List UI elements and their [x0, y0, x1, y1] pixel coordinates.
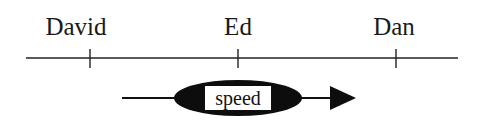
label-ed: Ed: [224, 14, 252, 39]
speed-label-box: speed: [205, 86, 271, 110]
label-david: David: [45, 14, 106, 39]
speed-label: speed: [215, 88, 261, 108]
label-dan: Dan: [373, 14, 415, 39]
diagram: David Ed Dan speed: [0, 0, 480, 125]
arrowhead-icon: [330, 86, 356, 110]
